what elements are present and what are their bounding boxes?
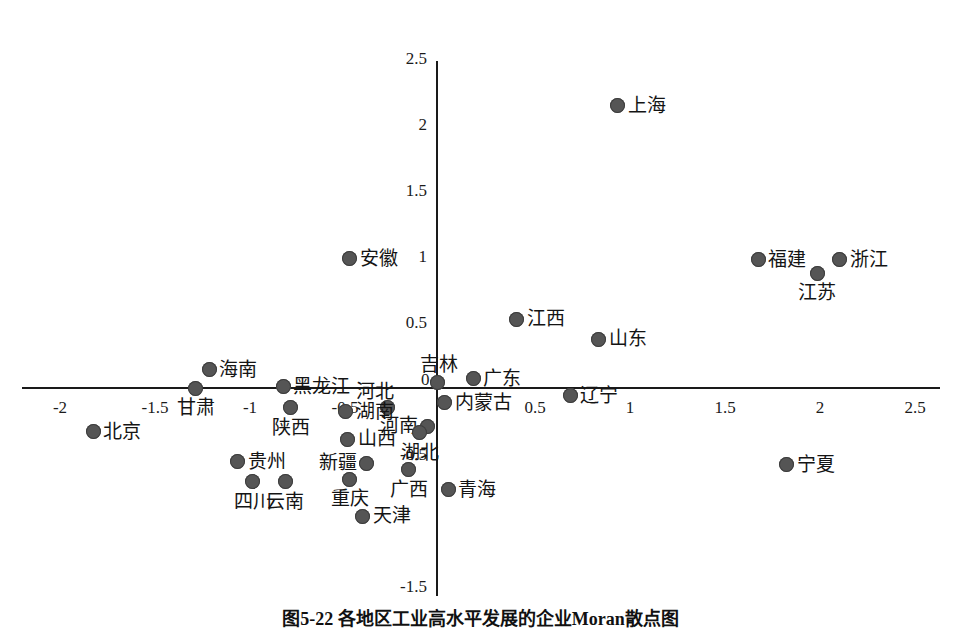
scatter-point-label: 浙江 xyxy=(850,250,888,269)
y-tick-label: 2 xyxy=(385,115,427,135)
x-tick-label: -1.5 xyxy=(140,398,170,418)
scatter-point-label: 云南 xyxy=(266,492,304,511)
scatter-point xyxy=(188,381,203,396)
scatter-point-label: 北京 xyxy=(103,422,141,441)
scatter-point-label: 重庆 xyxy=(331,489,369,508)
y-tick-label: 1.5 xyxy=(385,181,427,201)
scatter-point-label: 海南 xyxy=(219,360,257,379)
scatter-point xyxy=(342,472,357,487)
x-tick-label: 1 xyxy=(615,398,645,418)
scatter-point-label: 湖北 xyxy=(401,443,439,462)
x-tick-label: -2 xyxy=(45,398,75,418)
scatter-point xyxy=(355,509,370,524)
y-tick-label: -1.5 xyxy=(385,577,427,597)
scatter-point xyxy=(340,432,355,447)
scatter-point xyxy=(466,371,481,386)
scatter-point-label: 陕西 xyxy=(272,418,310,437)
scatter-point xyxy=(779,457,794,472)
scatter-point xyxy=(359,456,374,471)
scatter-point-label: 新疆 xyxy=(319,453,357,472)
scatter-point-label: 山西 xyxy=(358,429,396,448)
scatter-point xyxy=(86,424,101,439)
scatter-point-label: 甘肃 xyxy=(177,398,215,417)
scatter-point-label: 广西 xyxy=(390,480,428,499)
y-tick-label: 0.5 xyxy=(385,313,427,333)
scatter-point xyxy=(276,379,291,394)
scatter-point xyxy=(412,425,427,440)
scatter-point xyxy=(230,454,245,469)
x-tick-label: -1 xyxy=(235,398,265,418)
scatter-point-label: 安徽 xyxy=(360,249,398,268)
scatter-point xyxy=(832,252,847,267)
scatter-point xyxy=(610,98,625,113)
scatter-point-label: 山东 xyxy=(609,329,647,348)
scatter-point xyxy=(591,332,606,347)
scatter-point-label: 福建 xyxy=(768,250,806,269)
x-tick-label: 2 xyxy=(805,398,835,418)
scatter-point xyxy=(283,400,298,415)
scatter-point xyxy=(751,252,766,267)
x-tick-label: 0.5 xyxy=(520,398,550,418)
scatter-point-label: 河北 xyxy=(356,382,394,401)
scatter-point xyxy=(437,395,452,410)
scatter-point xyxy=(810,266,825,281)
scatter-point-label: 宁夏 xyxy=(797,455,835,474)
scatter-point-label: 吉林 xyxy=(420,355,458,374)
scatter-point xyxy=(430,375,445,390)
scatter-point xyxy=(563,388,578,403)
scatter-point xyxy=(278,474,293,489)
x-tick-label: 1.5 xyxy=(710,398,740,418)
scatter-point-label: 江西 xyxy=(527,309,565,328)
y-tick-label: 2.5 xyxy=(385,49,427,69)
x-tick-label: 2.5 xyxy=(900,398,930,418)
scatter-point xyxy=(245,474,260,489)
scatter-point-label: 上海 xyxy=(628,96,666,115)
scatter-point-label: 天津 xyxy=(373,506,411,525)
scatter-point-label: 青海 xyxy=(458,480,496,499)
scatter-point-label: 江苏 xyxy=(798,283,836,302)
scatter-point xyxy=(401,462,416,477)
scatter-point-label: 黑龙江 xyxy=(293,377,350,396)
scatter-point xyxy=(441,482,456,497)
scatter-point xyxy=(202,362,217,377)
x-axis-line xyxy=(22,387,940,389)
figure-caption: 图5-22 各地区工业高水平发展的企业Moran散点图 xyxy=(0,604,961,630)
scatter-point-label: 贵州 xyxy=(248,452,286,471)
scatter-point-label: 内蒙古 xyxy=(455,393,512,412)
scatter-point-label: 广东 xyxy=(483,369,521,388)
scatter-point xyxy=(342,251,357,266)
scatter-point xyxy=(509,312,524,327)
scatter-point-label: 辽宁 xyxy=(580,386,618,405)
y-axis-line xyxy=(436,61,438,596)
